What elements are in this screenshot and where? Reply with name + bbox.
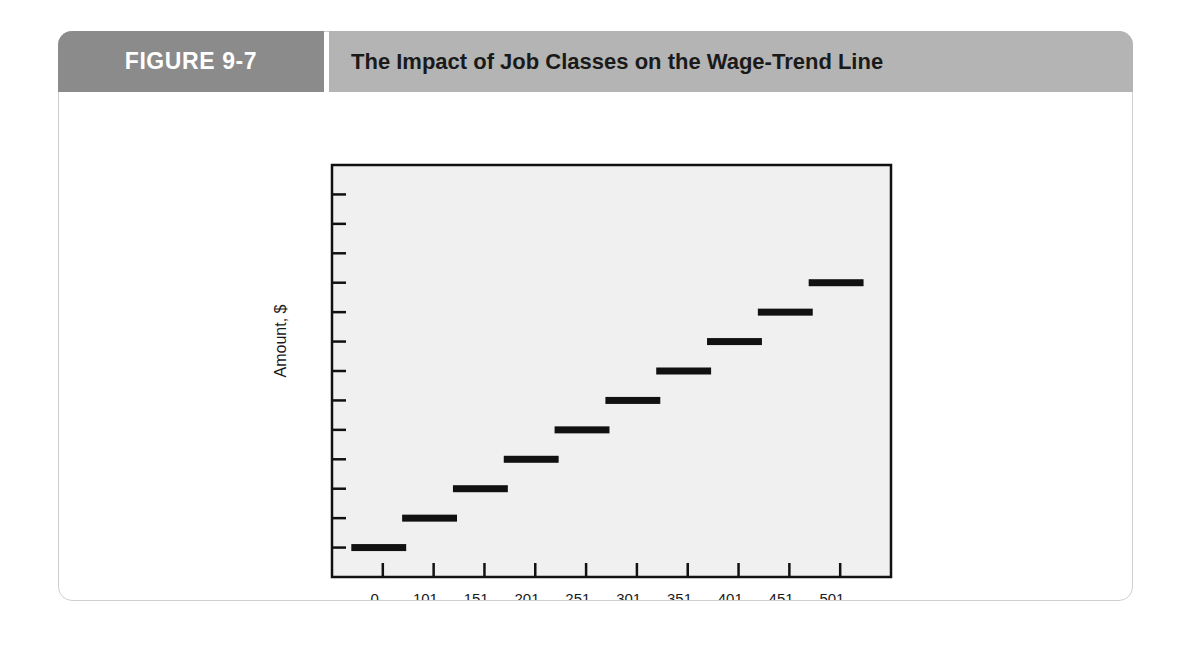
x-tick-label-5: 251–300	[565, 590, 599, 600]
x-tick-label-10: 501–550	[819, 590, 853, 600]
x-tick-label-1: 0–100	[366, 590, 391, 600]
bar-7	[656, 368, 711, 375]
x-axis-tick-labels: 0–100101–150151–200201–250251–300301–350…	[366, 590, 853, 600]
figure-title-band: The Impact of Job Classes on the Wage-Tr…	[329, 31, 1133, 92]
x-tick-label-9: 451–500	[769, 590, 803, 600]
x-tick-label-2: 101–150	[413, 590, 447, 600]
figure-number-label: FIGURE 9-7	[125, 48, 258, 75]
y-axis-title: Amount, $	[272, 304, 289, 377]
bar-10	[809, 279, 864, 286]
figure-header: FIGURE 9-7 The Impact of Job Classes on …	[58, 31, 1133, 92]
x-tick-label-7: 351–400	[667, 590, 701, 600]
bar-9	[758, 309, 813, 316]
x-tick-label-6: 301–350	[616, 590, 650, 600]
bar-4	[504, 456, 559, 463]
bar-3	[453, 485, 508, 492]
bar-5	[555, 426, 610, 433]
figure-title: The Impact of Job Classes on the Wage-Tr…	[351, 49, 883, 75]
figure-number-tab: FIGURE 9-7	[58, 31, 324, 92]
bar-1	[351, 544, 406, 551]
bar-8	[707, 338, 762, 345]
figure-card: FIGURE 9-7 The Impact of Job Classes on …	[58, 31, 1133, 601]
x-tick-label-3: 151–200	[464, 590, 498, 600]
chart-plot-region: 0–100101–150151–200201–250251–300301–350…	[59, 93, 1132, 600]
wage-trend-step-chart: 0–100101–150151–200201–250251–300301–350…	[59, 93, 1132, 600]
bar-2	[402, 515, 457, 522]
x-tick-label-4: 201–250	[515, 590, 549, 600]
x-tick-label-8: 401–450	[718, 590, 752, 600]
bar-6	[605, 397, 660, 404]
